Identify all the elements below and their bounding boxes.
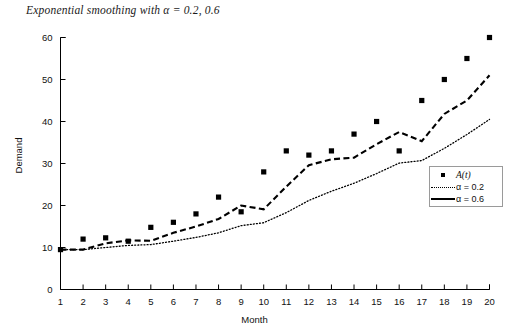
data-point-marker bbox=[329, 148, 334, 153]
data-point-marker bbox=[171, 220, 176, 225]
data-point-marker bbox=[103, 235, 108, 240]
data-point-marker bbox=[487, 35, 492, 40]
legend-label-at: A(t) bbox=[456, 170, 471, 180]
data-point-marker bbox=[397, 148, 402, 153]
series-line-alpha-06 bbox=[61, 75, 490, 249]
data-point-marker bbox=[261, 169, 266, 174]
data-point-marker bbox=[148, 225, 153, 230]
axes bbox=[61, 38, 490, 290]
legend-item-at: A(t) bbox=[430, 169, 504, 181]
data-point-marker bbox=[464, 56, 469, 61]
legend-label-alpha-06: α = 0.6 bbox=[456, 194, 484, 204]
data-point-marker bbox=[239, 209, 244, 214]
data-point-marker bbox=[442, 77, 447, 82]
chart-figure: Exponential smoothing with α = 0.2, 0.6 … bbox=[0, 0, 509, 330]
data-point-marker bbox=[374, 119, 379, 124]
legend-item-alpha-06: α = 0.6 bbox=[430, 193, 504, 205]
data-point-marker bbox=[419, 98, 424, 103]
series-line-alpha-02 bbox=[61, 119, 490, 249]
data-point-marker bbox=[80, 237, 85, 242]
legend-item-alpha-02: α = 0.2 bbox=[430, 181, 504, 193]
legend-label-alpha-02: α = 0.2 bbox=[456, 182, 484, 192]
data-point-marker bbox=[193, 211, 198, 216]
square-marker-icon bbox=[430, 170, 456, 181]
data-point-marker bbox=[306, 153, 311, 158]
plot-area bbox=[0, 0, 509, 330]
data-series bbox=[58, 35, 492, 252]
dashed-line-icon bbox=[430, 194, 456, 205]
data-point-marker bbox=[351, 132, 356, 137]
data-point-marker bbox=[284, 148, 289, 153]
data-point-marker bbox=[216, 195, 221, 200]
dotted-line-icon bbox=[430, 182, 456, 193]
chart-legend: A(t) α = 0.2 α = 0.6 bbox=[429, 166, 503, 207]
